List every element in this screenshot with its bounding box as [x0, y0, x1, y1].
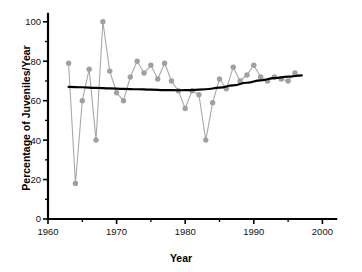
- data-point: [141, 70, 146, 75]
- data-point: [121, 98, 126, 103]
- chart-figure: 02040608010019601970198019902000 Percent…: [0, 0, 362, 272]
- data-series-line: [69, 22, 295, 184]
- y-tick-label: 0: [36, 213, 41, 224]
- y-axis-title: Percentage of Juveniles/Year: [20, 23, 32, 213]
- data-point: [210, 100, 215, 105]
- data-point: [183, 106, 188, 111]
- data-point: [196, 92, 201, 97]
- x-tick-label: 1990: [243, 226, 264, 237]
- data-point: [285, 78, 290, 83]
- data-point: [93, 137, 98, 142]
- data-point: [86, 66, 91, 71]
- data-point: [251, 62, 256, 67]
- y-tick-label: 60: [30, 95, 41, 106]
- data-point: [169, 78, 174, 83]
- x-tick-label: 2000: [312, 226, 333, 237]
- chart-plot-area: 02040608010019601970198019902000: [0, 0, 362, 272]
- data-point: [80, 98, 85, 103]
- data-point: [203, 137, 208, 142]
- data-point: [231, 64, 236, 69]
- data-point: [107, 68, 112, 73]
- x-tick-label: 1980: [175, 226, 196, 237]
- y-tick-label: 20: [30, 174, 41, 185]
- data-point: [100, 19, 105, 24]
- data-point: [148, 62, 153, 67]
- data-point: [162, 61, 167, 66]
- data-point: [114, 90, 119, 95]
- x-tick-label: 1960: [37, 226, 58, 237]
- x-axis-title: Year: [0, 252, 362, 264]
- y-tick-label: 40: [30, 135, 41, 146]
- x-tick-label: 1970: [106, 226, 127, 237]
- y-tick-label: 80: [30, 56, 41, 67]
- data-point: [73, 181, 78, 186]
- data-point: [258, 74, 263, 79]
- data-point: [155, 76, 160, 81]
- data-point: [244, 72, 249, 77]
- data-point: [128, 74, 133, 79]
- data-point: [217, 76, 222, 81]
- data-point: [134, 59, 139, 64]
- data-point: [66, 61, 71, 66]
